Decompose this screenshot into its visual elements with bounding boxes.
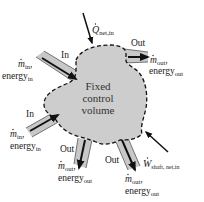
outlet-tag-bottom-right: Out <box>105 155 120 165</box>
svg-text:Qnet,in: Qnet,in <box>92 24 115 36</box>
svg-text:energyout: energyout <box>149 66 183 77</box>
work-label: Wshaft, net,in <box>143 157 180 170</box>
inlet-tag-left-lower: In <box>26 109 34 119</box>
center-label-line1: Fixed <box>85 80 111 92</box>
center-label-line3: volume <box>82 104 115 116</box>
inlet-tag-top-left: In <box>61 50 69 60</box>
svg-text:min,: min, <box>18 59 32 70</box>
outlet-label-bottom-right: mout, energyout <box>125 174 159 197</box>
work-arrow <box>146 132 168 152</box>
outlet-tag-top-right: Out <box>131 38 146 48</box>
heat-arrow <box>83 13 92 43</box>
center-label-line2: control <box>82 92 113 104</box>
svg-text:energyin: energyin <box>10 141 41 152</box>
svg-text:mout,: mout, <box>125 174 143 185</box>
svg-text:mout,: mout, <box>58 161 76 172</box>
outlet-label-top-right: mout, energyout <box>149 55 183 77</box>
svg-text:Wshaft, net,in: Wshaft, net,in <box>143 158 180 170</box>
heat-label: Qnet,in <box>92 23 115 36</box>
outlet-tag-bottom-left: Out <box>60 144 75 154</box>
svg-text:min,: min, <box>10 129 24 140</box>
svg-text:mout,: mout, <box>150 55 168 66</box>
control-volume-diagram: Fixed control volume Qnet,in Wshaft, net… <box>0 0 204 202</box>
svg-text:energyout: energyout <box>125 186 159 197</box>
dot-accent <box>95 23 96 24</box>
svg-text:energyin: energyin <box>2 71 33 82</box>
inlet-label-top-left: min, energyin <box>2 59 33 82</box>
svg-text:energyout: energyout <box>58 173 92 184</box>
